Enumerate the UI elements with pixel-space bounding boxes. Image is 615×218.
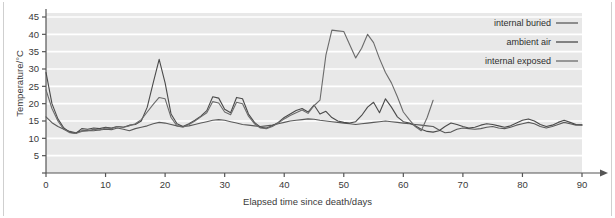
svg-text:10: 10 bbox=[28, 133, 39, 144]
line-chart: 51015202530354045 0102030405060708090 in… bbox=[0, 0, 615, 218]
svg-text:20: 20 bbox=[28, 98, 39, 109]
svg-text:25: 25 bbox=[28, 81, 39, 92]
svg-text:90: 90 bbox=[577, 179, 588, 190]
svg-text:internal exposed: internal exposed bbox=[485, 56, 551, 66]
plot-area-background bbox=[46, 13, 582, 173]
y-axis: 51015202530354045 bbox=[28, 9, 46, 173]
svg-text:70: 70 bbox=[458, 179, 469, 190]
y-axis-title: Temperature/°C bbox=[14, 44, 25, 124]
svg-text:20: 20 bbox=[160, 179, 171, 190]
svg-text:5: 5 bbox=[34, 150, 39, 161]
svg-text:ambient air: ambient air bbox=[506, 37, 551, 47]
x-axis: 0102030405060708090 bbox=[43, 170, 608, 190]
svg-text:40: 40 bbox=[279, 179, 290, 190]
svg-text:0: 0 bbox=[43, 179, 48, 190]
x-axis-title: Elapsed time since death/days bbox=[0, 196, 615, 207]
svg-text:30: 30 bbox=[28, 63, 39, 74]
svg-text:35: 35 bbox=[28, 46, 39, 57]
svg-text:50: 50 bbox=[338, 179, 349, 190]
svg-text:10: 10 bbox=[100, 179, 111, 190]
svg-text:30: 30 bbox=[219, 179, 230, 190]
svg-text:45: 45 bbox=[28, 11, 39, 22]
svg-text:80: 80 bbox=[517, 179, 528, 190]
svg-text:internal buried: internal buried bbox=[494, 18, 551, 28]
svg-text:60: 60 bbox=[398, 179, 409, 190]
svg-text:15: 15 bbox=[28, 115, 39, 126]
chart-figure: 51015202530354045 0102030405060708090 in… bbox=[0, 0, 615, 218]
svg-text:40: 40 bbox=[28, 29, 39, 40]
